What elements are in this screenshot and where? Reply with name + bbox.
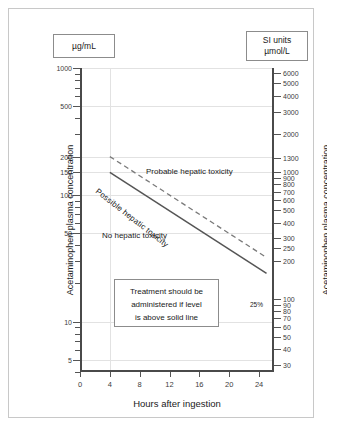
y-tick-right (274, 365, 281, 366)
y-tick-right (274, 261, 281, 262)
y-tick-label-right: 700 (283, 188, 295, 195)
unit-right-line1: SI units (247, 35, 307, 46)
x-axis-title: Hours after ingestion (133, 398, 221, 409)
y-tick-label-right: 600 (283, 197, 295, 204)
y-tick-right (274, 223, 281, 224)
treatment-note-line3: is above solid line (115, 311, 218, 324)
y-tick-right (274, 299, 281, 300)
treatment-note-line1: Treatment should be (115, 285, 218, 298)
y-tick-right (274, 73, 281, 74)
x-tick (229, 372, 230, 377)
y-tick-right (274, 248, 281, 249)
y-tick-right (274, 200, 281, 201)
y-tick-label-right: 800 (283, 181, 295, 188)
y-tick-label-right: 500 (283, 207, 295, 214)
y-tick-right (274, 238, 281, 239)
y-tick-right (274, 83, 281, 84)
x-tick (110, 372, 111, 377)
x-tick-label: 16 (195, 380, 203, 389)
y-axis-title-left: Acetaminophen plasma concentration (65, 145, 75, 296)
y-tick-right (274, 210, 281, 211)
x-tick (140, 372, 141, 377)
x-tick-label: 12 (165, 380, 173, 389)
y-tick-left (73, 106, 80, 107)
y-tick-right (274, 178, 281, 179)
y-tick-right (274, 158, 281, 159)
y-tick-right (274, 337, 281, 338)
y-tick-right (274, 192, 281, 193)
x-tick-label: 24 (255, 380, 263, 389)
y-tick-right (274, 96, 281, 97)
y-tick-label-left: 10 (64, 318, 72, 325)
y-tick-label-left: 5 (68, 356, 72, 363)
y-tick-label-right: 40 (283, 346, 291, 353)
y-tick-right (274, 311, 281, 312)
y-tick-label-right: 2000 (283, 130, 299, 137)
region-label-probable: Probable hepatic toxicity (146, 167, 233, 176)
y-tick-label-right: 4000 (283, 92, 299, 99)
y-tick-label-left: 1000 (56, 65, 72, 72)
unit-box-left: µg/mL (53, 34, 115, 58)
percent-annotation: 25% (250, 301, 263, 308)
y-tick-left (73, 68, 80, 69)
x-tick (199, 372, 200, 377)
treatment-note-box: Treatment should be administered if leve… (114, 279, 219, 327)
plot-area: 100050020015010050105 600050004000300020… (80, 68, 274, 372)
y-tick-label-right: 30 (283, 362, 291, 369)
x-tick-label: 8 (138, 380, 142, 389)
y-tick-left (73, 360, 80, 361)
y-tick-right (274, 184, 281, 185)
y-tick-label-right: 300 (283, 235, 295, 242)
y-tick-right (274, 318, 281, 319)
y-tick-right (274, 327, 281, 328)
scrollbar-track[interactable] (327, 0, 339, 426)
x-tick (259, 372, 260, 377)
x-tick-label: 20 (225, 380, 233, 389)
y-tick-label-right: 3000 (283, 108, 299, 115)
y-tick-label-right: 60 (283, 323, 291, 330)
y-tick-label-left: 500 (60, 103, 72, 110)
x-tick-label: 4 (108, 380, 112, 389)
unit-left-label: µg/mL (72, 41, 96, 51)
y-tick-right (274, 134, 281, 135)
unit-right-line2: µmol/L (247, 46, 307, 57)
y-tick-right (274, 172, 281, 173)
x-tick (170, 372, 171, 377)
y-tick-label-right: 80 (283, 308, 291, 315)
y-tick-label-right: 400 (283, 219, 295, 226)
y-tick-label-right: 70 (283, 315, 291, 322)
y-tick-label-right: 6000 (283, 70, 299, 77)
y-tick-right (274, 112, 281, 113)
y-tick-label-right: 5000 (283, 80, 299, 87)
unit-box-right: SI units µmol/L (246, 31, 308, 61)
x-tick (80, 372, 81, 377)
y-tick-label-right: 1300 (283, 154, 299, 161)
y-tick-label-right: 200 (283, 257, 295, 264)
chart-card: µg/mL SI units µmol/L 100050020015010050… (8, 8, 314, 418)
y-tick-left (73, 322, 80, 323)
y-tick-right (274, 349, 281, 350)
y-tick-label-right: 250 (283, 245, 295, 252)
y-tick-label-right: 50 (283, 334, 291, 341)
nomogram-page: µg/mL SI units µmol/L 100050020015010050… (0, 0, 339, 426)
x-tick-label: 0 (78, 380, 82, 389)
treatment-note-line2: administered if level (115, 298, 218, 311)
y-tick-right (274, 305, 281, 306)
